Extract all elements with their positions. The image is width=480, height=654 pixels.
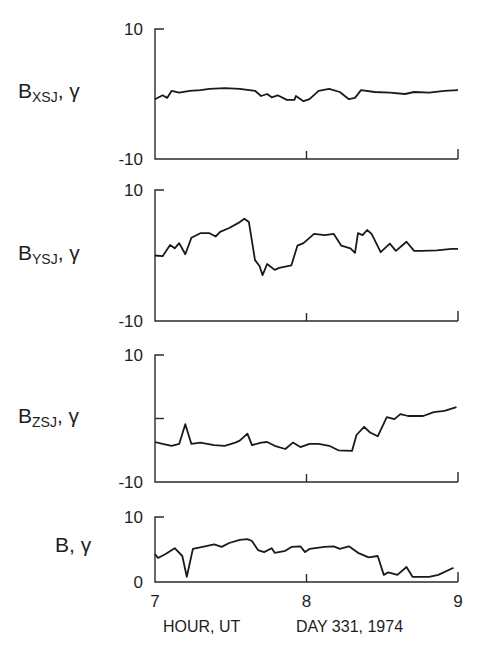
panel-1-ylabel: BXSJ, γ bbox=[18, 79, 80, 105]
day-annotation: DAY 331, 1974 bbox=[296, 618, 403, 635]
y-tick-top: 10 bbox=[124, 20, 143, 39]
magnetic-field-chart: 10-10BXSJ, γ10-10BYSJ, γ10-10BZSJ, γ100B… bbox=[0, 0, 480, 654]
panel-4-trace bbox=[155, 539, 454, 577]
y-tick-bottom: 0 bbox=[134, 573, 143, 592]
panel-3-ylabel: BZSJ, γ bbox=[18, 404, 80, 430]
panel-1-trace bbox=[155, 88, 458, 101]
panel-2-axes bbox=[155, 190, 458, 321]
panel-1-axes bbox=[155, 29, 458, 159]
panel-4-axes bbox=[155, 517, 458, 582]
x-tick-9: 9 bbox=[453, 592, 462, 611]
y-tick-top: 10 bbox=[124, 346, 143, 365]
panel-3-axes bbox=[155, 355, 458, 482]
panel-4-ylabel: B, γ bbox=[55, 533, 92, 556]
y-tick-bottom: -10 bbox=[118, 150, 143, 169]
panel-3-trace bbox=[155, 407, 457, 451]
y-tick-bottom: -10 bbox=[118, 473, 143, 492]
y-tick-bottom: -10 bbox=[118, 312, 143, 331]
x-axis-title: HOUR, UT bbox=[163, 618, 241, 635]
y-tick-top: 10 bbox=[124, 181, 143, 200]
panel-2-ylabel: BYSJ, γ bbox=[18, 241, 80, 267]
panel-2-trace bbox=[155, 219, 458, 275]
y-tick-top: 10 bbox=[124, 508, 143, 527]
x-tick-7: 7 bbox=[150, 592, 159, 611]
x-tick-8: 8 bbox=[302, 592, 311, 611]
